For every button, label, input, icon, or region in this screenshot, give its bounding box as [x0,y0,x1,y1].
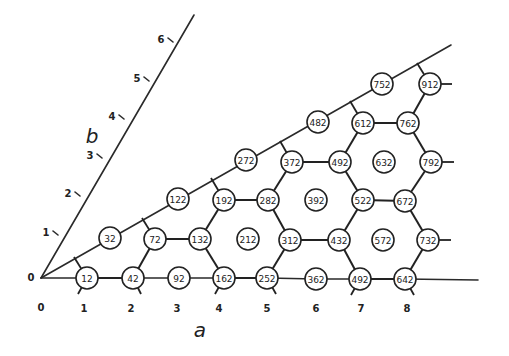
b-axis-tick-label: 6 [158,34,165,45]
b-axis-tick [119,115,124,119]
lattice-node-162: 162 [213,267,235,289]
node-label: 92 [173,274,184,284]
b-axis-tick-label: 1 [43,227,50,238]
node-label: 132 [191,235,208,245]
node-label: 372 [283,158,300,168]
b-axis-tick-label: 4 [109,111,116,122]
node-label: 12 [81,274,92,284]
lattice-node-792: 792 [420,151,442,173]
lattice-node-522: 522 [352,189,374,211]
lattice-node-632: 632 [373,151,395,173]
node-label: 252 [258,274,275,284]
lattice-node-642: 642 [394,268,416,290]
lattice-node-92: 92 [168,267,190,289]
node-label: 632 [375,158,392,168]
origin-label: 0 [28,272,35,283]
hexagonal-lattice-diagram: 1242921622523624926423272132212312432572… [0,0,509,356]
lattice-node-12: 12 [76,267,98,289]
node-label: 72 [149,235,160,245]
node-label: 762 [399,119,416,129]
node-label: 32 [104,234,115,244]
lattice-node-732: 732 [417,229,439,251]
b-axis-tick [97,154,102,158]
node-label: 792 [422,158,439,168]
a-axis-title: a [194,318,206,342]
lattice-node-372: 372 [281,151,303,173]
lattice-node-212: 212 [237,228,259,250]
node-label: 282 [259,196,276,206]
node-label: 212 [239,235,256,245]
lattice-node-612: 612 [352,112,374,134]
a-axis-tick-label: 6 [313,303,320,314]
b-axis-tick [144,77,149,81]
b-axis-title: b [86,124,99,148]
node-label: 42 [127,274,138,284]
a-axis-tick-label: 1 [81,303,88,314]
node-label: 362 [307,275,324,285]
a-axis-tick-label: 5 [264,303,271,314]
lattice-node-192: 192 [213,189,235,211]
lattice-node-572: 572 [372,229,394,251]
node-label: 612 [354,119,371,129]
b-axis-tick-label: 2 [65,188,72,199]
b-axis-tick [53,231,58,235]
lattice-node-282: 282 [257,189,279,211]
lattice-nodes: 1242921622523624926423272132212312432572… [76,73,442,290]
lattice-node-482: 482 [307,111,329,133]
b-axis-tick [75,192,80,196]
node-label: 432 [330,236,347,246]
lattice-node-912: 912 [419,73,441,95]
lattice-node-492b: 492 [349,268,371,290]
lattice-node-72: 72 [144,228,166,250]
a-axis-tick-label: 3 [174,303,181,314]
lattice-node-432: 432 [328,229,350,251]
node-label: 572 [374,236,391,246]
axis-labels: 0123456781234560ab [28,34,411,343]
b-axis-tick-label: 5 [134,73,141,84]
node-label: 312 [281,236,298,246]
node-label: 392 [307,196,324,206]
node-label: 732 [419,236,436,246]
lattice-node-762: 762 [397,112,419,134]
lattice-node-42: 42 [122,267,144,289]
lattice-node-492a: 492 [329,151,351,173]
b-axis-tick [168,38,173,42]
node-label: 162 [215,274,232,284]
node-label: 752 [373,80,390,90]
lattice-node-122: 122 [167,188,189,210]
lattice-node-752: 752 [371,73,393,95]
node-label: 912 [421,80,438,90]
lattice-node-392: 392 [305,189,327,211]
lattice-node-672: 672 [394,190,416,212]
a-axis-tick-label: 8 [404,303,411,314]
a-axis-tick-label: 4 [216,303,223,314]
node-label: 122 [169,195,186,205]
lattice-node-252: 252 [256,267,278,289]
lattice-node-132: 132 [189,228,211,250]
node-label: 642 [396,275,413,285]
lattice-node-362: 362 [305,268,327,290]
node-label: 492 [351,275,368,285]
a-axis-tick-label: 7 [358,303,365,314]
lattice-node-32: 32 [99,227,121,249]
bond-stubs [74,63,454,295]
node-label: 272 [237,156,254,166]
b-axis-tick-label: 3 [87,150,94,161]
node-label: 492 [331,158,348,168]
a-axis-tick-label: 2 [128,303,135,314]
lattice-node-312: 312 [279,229,301,251]
lattice-node-272: 272 [235,149,257,171]
a-axis-tick-label: 0 [38,302,45,313]
node-label: 192 [215,196,232,206]
node-label: 482 [309,118,326,128]
node-label: 672 [396,197,413,207]
node-label: 522 [354,196,371,206]
